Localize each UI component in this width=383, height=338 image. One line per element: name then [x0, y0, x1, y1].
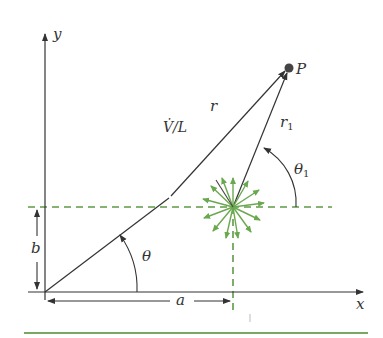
diagram-canvas: y x P r r1 V̇/L θ θ1 a b — [0, 0, 383, 338]
r1-vector — [233, 73, 287, 207]
r-vector-part2 — [171, 71, 285, 196]
point-p-marker — [285, 64, 294, 73]
theta1-label: θ1 — [294, 160, 309, 179]
x-axis-label: x — [356, 295, 365, 313]
theta1-arc — [264, 148, 296, 207]
point-p-label: P — [295, 60, 307, 78]
r-vector-part1 — [45, 198, 169, 292]
a-label: a — [176, 291, 185, 309]
y-axis-label: y — [52, 25, 62, 43]
theta-arc — [120, 235, 137, 292]
b-label: b — [31, 239, 41, 257]
theta-label: θ — [142, 247, 151, 265]
line-source-icon — [203, 178, 264, 238]
r-label: r — [210, 97, 218, 115]
strength-label: V̇/L — [163, 118, 187, 135]
r1-label: r1 — [280, 113, 294, 132]
